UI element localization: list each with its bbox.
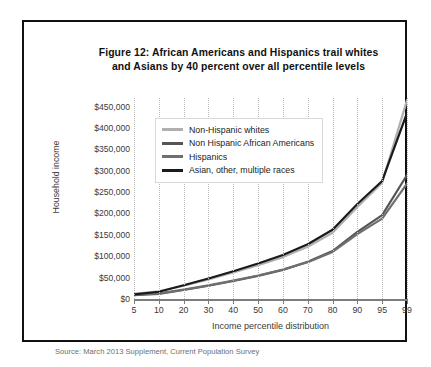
- x-tickmark-95: [382, 299, 383, 304]
- x-tick-20: 20: [179, 305, 189, 315]
- figure-frame: Figure 12: African Americans and Hispani…: [22, 20, 407, 342]
- legend-swatch-icon: [162, 155, 183, 158]
- y-tick-400000: $400,000: [94, 123, 130, 133]
- y-tick-50000: $50,000: [99, 273, 130, 283]
- source-note: Source: March 2013 Supplement, Current P…: [55, 347, 259, 356]
- x-tickmark-70: [308, 299, 309, 304]
- legend-item-asian-other-multiple-races: Asian, other, multiple races: [162, 164, 314, 178]
- legend-swatch-icon: [162, 128, 183, 131]
- x-tick-99: 99: [402, 305, 412, 315]
- x-tick-30: 30: [204, 305, 214, 315]
- x-tick-60: 60: [278, 305, 288, 315]
- gridline-90: [357, 98, 358, 299]
- legend-item-hispanics: Hispanics: [162, 150, 314, 164]
- gridline-80: [333, 98, 334, 299]
- gridline-99: [407, 98, 408, 299]
- x-tick-80: 80: [328, 305, 338, 315]
- x-tickmark-50: [258, 299, 259, 304]
- series-line-hispanics: [134, 184, 407, 295]
- x-tick-70: 70: [303, 305, 313, 315]
- figure-title: Figure 12: African Americans and Hispani…: [50, 46, 427, 75]
- chart-legend: Non-Hispanic whitesNon Hispanic African …: [155, 118, 323, 183]
- x-tick-90: 90: [352, 305, 362, 315]
- y-tick-450000: $450,000: [94, 102, 130, 112]
- x-axis-title: Income percentile distribution: [134, 321, 407, 331]
- x-tickmark-40: [233, 299, 234, 304]
- legend-swatch-icon: [162, 169, 183, 172]
- legend-label: Non-Hispanic whites: [189, 125, 269, 135]
- legend-label: Non Hispanic African Americans: [189, 138, 314, 148]
- legend-swatch-icon: [162, 142, 183, 145]
- x-tickmark-99: [407, 299, 408, 304]
- gridline-95: [382, 98, 383, 299]
- x-tickmark-80: [333, 299, 334, 304]
- x-tick-40: 40: [228, 305, 238, 315]
- x-tickmark-10: [159, 299, 160, 304]
- legend-label: Hispanics: [189, 152, 227, 162]
- series-line-non-hispanic-african-americans: [134, 175, 407, 295]
- figure-title-line-2: and Asians by 40 percent over all percen…: [50, 60, 427, 74]
- x-tickmark-60: [283, 299, 284, 304]
- y-tick-250000: $250,000: [94, 187, 130, 197]
- x-tick-10: 10: [154, 305, 164, 315]
- gridline-5: [134, 98, 135, 299]
- x-tickmark-30: [208, 299, 209, 304]
- y-tick-0: $0: [120, 294, 130, 304]
- y-tick-100000: $100,000: [94, 251, 130, 261]
- figure-title-line-1: Figure 12: African Americans and Hispani…: [50, 46, 427, 60]
- legend-label: Asian, other, multiple races: [189, 165, 295, 175]
- x-tickmark-20: [184, 299, 185, 304]
- y-axis-tick-labels: $0$50,000$100,000$150,000$200,000$250,00…: [24, 98, 130, 299]
- x-tick-95: 95: [377, 305, 387, 315]
- y-tick-150000: $150,000: [94, 230, 130, 240]
- x-tickmark-5: [134, 299, 135, 304]
- x-tickmark-90: [357, 299, 358, 304]
- x-tick-5: 5: [132, 305, 137, 315]
- y-tick-350000: $350,000: [94, 144, 130, 154]
- legend-item-non-hispanic-african-americans: Non Hispanic African Americans: [162, 137, 314, 151]
- x-axis-line: [134, 299, 407, 301]
- x-tick-50: 50: [253, 305, 263, 315]
- y-tick-300000: $300,000: [94, 166, 130, 176]
- legend-item-non-hispanic-whites: Non-Hispanic whites: [162, 123, 314, 137]
- y-tick-200000: $200,000: [94, 208, 130, 218]
